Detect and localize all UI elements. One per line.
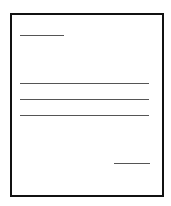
- placeholder-line-signature: [114, 163, 150, 164]
- placeholder-line-body-line-2: [20, 99, 149, 100]
- placeholder-line-body-line-1: [20, 83, 149, 84]
- document-outline: [10, 13, 164, 197]
- placeholder-line-body-line-3: [20, 115, 149, 116]
- placeholder-line-heading: [20, 35, 64, 36]
